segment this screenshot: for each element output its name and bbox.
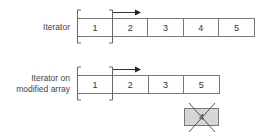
iterator-bracket-icon — [78, 10, 113, 43]
iterator-bracket-icon — [78, 67, 113, 100]
diagram-overlay — [0, 0, 263, 140]
arrow-right-icon — [113, 10, 141, 16]
arrow-right-icon — [113, 67, 141, 73]
cross-out-icon — [189, 103, 215, 132]
